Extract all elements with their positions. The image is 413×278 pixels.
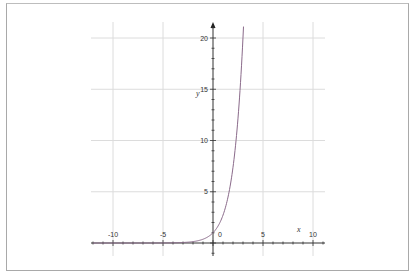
exp-curve xyxy=(93,27,244,243)
x-axis-label: x xyxy=(296,225,301,234)
y-tick-label: 10 xyxy=(200,137,208,144)
x-tick-label: 5 xyxy=(261,231,265,238)
axes xyxy=(91,22,325,256)
grid-lines xyxy=(91,22,325,256)
x-tick-label: 0 xyxy=(218,231,222,238)
function-plot: -10-505105101520 x y xyxy=(0,0,413,278)
y-axis-label: y xyxy=(195,89,200,98)
x-tick-label: 10 xyxy=(309,231,317,238)
x-tick-label: -5 xyxy=(160,231,166,238)
x-tick-label: -10 xyxy=(108,231,118,238)
y-axis-arrow-icon xyxy=(211,22,216,28)
y-tick-label: 15 xyxy=(200,86,208,93)
tick-labels: -10-505105101520 xyxy=(108,35,317,239)
y-tick-label: 5 xyxy=(204,188,208,195)
y-tick-label: 20 xyxy=(200,35,208,42)
